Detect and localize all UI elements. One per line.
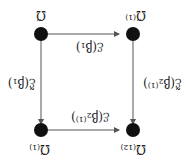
label-top-left: Ω̃₍₁₂₎ bbox=[121, 143, 146, 155]
label-bottom-left: Ω̃⁽¹⁾ bbox=[125, 9, 146, 21]
label-top-right: Ω̃₍₁₎ bbox=[29, 143, 50, 155]
label-arrow-bottom: ℰ(β₁) bbox=[76, 41, 104, 53]
label-bottom-right: Ω̃ bbox=[36, 9, 46, 21]
node-top-left bbox=[126, 123, 140, 137]
rotated-diagram: Ω̃₍₁₂₎ Ω̃₍₁₎ Ω̃⁽¹⁾ Ω̃ ℰ(β₂⁽¹⁾) ℰ(β₁) ℰ̃(… bbox=[0, 0, 186, 167]
label-arrow-right: ℰ̃(β₁) bbox=[8, 77, 36, 89]
node-bottom-right bbox=[34, 27, 48, 41]
node-bottom-left bbox=[126, 27, 140, 41]
diagram-canvas: Ω̃₍₁₂₎ Ω̃₍₁₎ Ω̃⁽¹⁾ Ω̃ ℰ(β₂⁽¹⁾) ℰ(β₁) ℰ̃(… bbox=[0, 0, 186, 167]
label-arrow-left: ℰ̃(β₂⁽¹⁾) bbox=[143, 77, 182, 89]
node-top-right bbox=[34, 123, 48, 137]
label-arrow-top: ℰ(β₂⁽¹⁾) bbox=[71, 111, 110, 123]
